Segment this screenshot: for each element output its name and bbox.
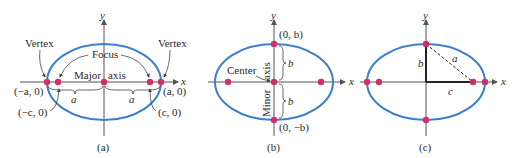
focus-point-right: [318, 79, 324, 85]
vertex-pointer-left: [40, 50, 45, 77]
covertex-point-top: [423, 41, 429, 47]
b-label-top: b: [288, 57, 294, 69]
vertex-point-left: [44, 79, 50, 85]
axis-label-rotated: axis: [260, 62, 272, 80]
vertex-point-right: [482, 79, 488, 85]
center-point: [101, 79, 107, 85]
x-axis-label: x: [500, 75, 506, 87]
brace-b-bottom: [279, 84, 286, 118]
center-label: Center: [227, 64, 257, 76]
pos-c-label: (c, 0): [158, 106, 182, 119]
vertex-pointer-right: [164, 50, 170, 77]
a-segment-dashed: [426, 44, 473, 82]
focus-point-left: [376, 79, 382, 85]
a-label: a: [452, 52, 458, 64]
major-label: Major: [74, 69, 101, 81]
b-label: b: [418, 57, 424, 69]
panel-a: y Vertex Vertex Focus Major axis (−a, 0)…: [14, 9, 187, 154]
caption-a: (a): [97, 141, 110, 154]
y-axis-label: y: [99, 9, 105, 21]
vertex-point-left: [364, 79, 370, 85]
y-axis-label: y: [422, 9, 428, 21]
focus-point-left: [225, 79, 231, 85]
brace-b-top: [279, 46, 286, 80]
neg-c-label: (−c, 0): [18, 106, 48, 119]
panel-c: x y b a c (c): [360, 9, 506, 154]
focus-point-left: [55, 79, 61, 85]
minor-label-rotated: Minor: [260, 89, 272, 117]
focus-label: Focus: [92, 48, 118, 60]
b-label-bottom: b: [288, 95, 294, 107]
focus-point-right: [147, 79, 153, 85]
bottom-label: (0, −b): [279, 121, 309, 134]
axis-label: axis: [108, 69, 126, 81]
y-axis-label: y: [270, 9, 276, 21]
covertex-point-bottom: [423, 117, 429, 123]
neg-a-label: (−a, 0): [14, 85, 44, 98]
a-label-left: a: [71, 93, 77, 105]
panel-b: x y (0, b) (0, −b) Center axis Minor b b…: [208, 9, 354, 154]
top-label: (0, b): [279, 28, 303, 41]
ellipse-diagram: y Vertex Vertex Focus Major axis (−a, 0)…: [0, 0, 518, 158]
caption-b: (b): [267, 141, 280, 154]
a-label-right: a: [129, 93, 135, 105]
vertex-label-left: Vertex: [25, 37, 54, 49]
x-axis-label: x: [348, 75, 354, 87]
x-axis-label-a: x: [180, 75, 186, 87]
covertex-point-top: [271, 41, 277, 47]
caption-c: (c): [419, 141, 432, 154]
focus-point-right: [470, 79, 476, 85]
c-label: c: [448, 85, 453, 97]
vertex-label-right: Vertex: [158, 37, 187, 49]
